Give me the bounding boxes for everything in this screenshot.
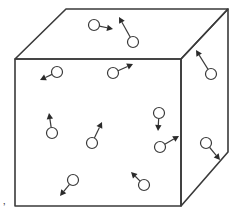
- velocity-line: [135, 176, 140, 181]
- gas-particle: [196, 50, 217, 80]
- cube-front-face: [15, 59, 181, 206]
- gas-box-diagram: ’: [0, 0, 238, 223]
- particle-circle: [154, 108, 165, 119]
- particle-circle: [108, 68, 119, 79]
- gas-particle: [119, 17, 139, 48]
- diagram-canvas: ’: [0, 0, 238, 223]
- particle-circle: [128, 37, 139, 48]
- velocity-line: [209, 147, 216, 155]
- particle-circle: [68, 175, 79, 186]
- gas-particle: [47, 113, 58, 139]
- cube-right-face: [181, 9, 228, 206]
- stray-mark: ’: [3, 201, 5, 213]
- particle-circle: [47, 128, 58, 139]
- velocity-line: [118, 66, 128, 70]
- particle-circle: [89, 20, 100, 31]
- velocity-line: [45, 74, 52, 77]
- gas-particle: [40, 67, 63, 81]
- gas-particle: [89, 20, 114, 31]
- arrowhead-icon: [47, 113, 53, 119]
- cube: [15, 9, 228, 206]
- velocity-line: [64, 184, 70, 191]
- gas-particle: [108, 64, 134, 79]
- arrowhead-icon: [106, 25, 113, 31]
- velocity-line: [165, 139, 174, 144]
- velocity-line: [199, 55, 208, 69]
- cube-top-face: [15, 9, 228, 59]
- gas-particle: [154, 108, 165, 132]
- arrowhead-icon: [155, 125, 161, 131]
- particle-circle: [52, 67, 63, 78]
- gas-particle: [87, 122, 103, 149]
- gas-particle: [201, 138, 221, 161]
- particle-circle: [139, 180, 150, 191]
- particles: [40, 17, 220, 196]
- particle-circle: [87, 138, 98, 149]
- velocity-line: [99, 26, 107, 28]
- gas-particle: [131, 172, 150, 191]
- particle-circle: [201, 138, 212, 149]
- velocity-line: [50, 119, 51, 128]
- velocity-line: [122, 22, 130, 37]
- gas-particle: [155, 136, 180, 153]
- particle-circle: [206, 69, 217, 80]
- gas-particle: [60, 175, 79, 197]
- velocity-line: [94, 127, 99, 138]
- particle-circle: [155, 142, 166, 153]
